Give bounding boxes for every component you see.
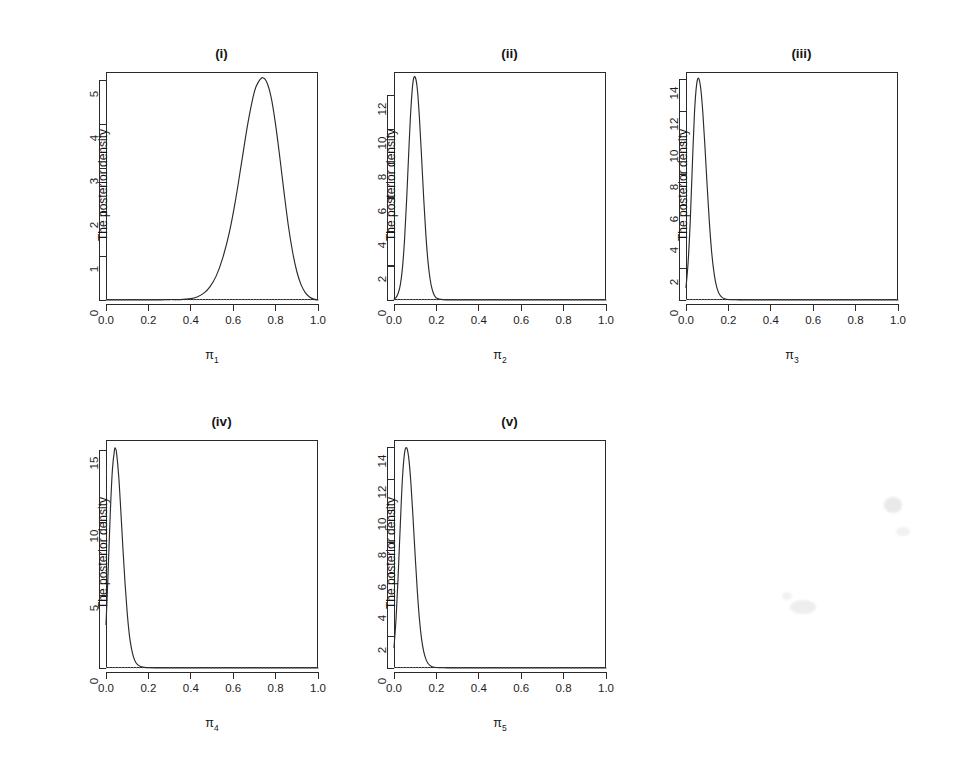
panel-title: (i) bbox=[60, 46, 383, 61]
scan-artifact-smudge bbox=[782, 592, 792, 600]
x-axis-title: π5 bbox=[470, 716, 530, 733]
x-axis-tick-label: 1.0 bbox=[298, 682, 338, 694]
plot-area bbox=[686, 72, 898, 300]
plot-area bbox=[394, 72, 606, 300]
x-axis-title: π4 bbox=[182, 716, 242, 733]
plot-area bbox=[106, 72, 318, 300]
x-axis-tick-label: 0.8 bbox=[256, 682, 296, 694]
x-axis-title: π3 bbox=[762, 348, 822, 365]
plot-area bbox=[394, 440, 606, 668]
panel-title: (v) bbox=[348, 414, 671, 429]
scan-artifact-smudge bbox=[896, 527, 910, 536]
x-axis-tick-label: 0.0 bbox=[374, 682, 414, 694]
plot-panel-2: (ii)0246810120.00.20.40.60.81.0The poste… bbox=[348, 20, 671, 406]
x-axis-tick-label: 1.0 bbox=[298, 314, 338, 326]
density-curve bbox=[106, 448, 318, 668]
x-axis-tick-label: 0.2 bbox=[416, 314, 456, 326]
x-axis-tick-label: 0.0 bbox=[86, 314, 126, 326]
x-axis-tick-label: 0.4 bbox=[459, 314, 499, 326]
y-axis-title: The posterior density bbox=[96, 110, 110, 260]
x-axis-tick-label: 1.0 bbox=[586, 314, 626, 326]
density-curve-svg bbox=[394, 72, 606, 300]
x-axis-tick-label: 0.8 bbox=[836, 314, 876, 326]
x-axis-tick-label: 0.6 bbox=[213, 314, 253, 326]
x-axis-tick-label: 0.6 bbox=[501, 314, 541, 326]
plot-panel-3: (iii)024681012140.00.20.40.60.81.0The po… bbox=[640, 20, 963, 406]
scan-artifact-smudge bbox=[790, 600, 816, 614]
x-axis-line bbox=[106, 304, 318, 305]
panel-title: (ii) bbox=[348, 46, 671, 61]
density-curve-svg bbox=[686, 72, 898, 300]
x-axis-tick-label: 1.0 bbox=[878, 314, 918, 326]
plot-panel-5: (v)024681012140.00.20.40.60.81.0The post… bbox=[348, 388, 671, 772]
x-axis-line bbox=[394, 672, 606, 673]
x-axis-title-subscript: 4 bbox=[214, 723, 219, 733]
x-axis-title-symbol: π bbox=[785, 348, 794, 362]
x-axis-line bbox=[106, 672, 318, 673]
density-curve bbox=[106, 78, 318, 300]
x-axis-title-subscript: 1 bbox=[214, 355, 219, 365]
density-curve bbox=[394, 76, 606, 300]
y-axis-title: The posterior density bbox=[384, 110, 398, 260]
x-axis-tick-label: 0.0 bbox=[666, 314, 706, 326]
x-axis-title: π1 bbox=[182, 348, 242, 365]
x-axis-tick-label: 0.8 bbox=[544, 682, 584, 694]
x-axis-tick-label: 0.4 bbox=[459, 682, 499, 694]
density-curve-svg bbox=[106, 440, 318, 668]
panel-title: (iii) bbox=[640, 46, 963, 61]
x-axis-tick-label: 0.6 bbox=[501, 682, 541, 694]
x-axis-tick-label: 0.6 bbox=[213, 682, 253, 694]
density-curve-svg bbox=[394, 440, 606, 668]
y-axis-title: The posterior density bbox=[96, 478, 110, 628]
x-axis-tick-label: 0.4 bbox=[171, 682, 211, 694]
plot-panel-1: (i)0123450.00.20.40.60.81.0The posterior… bbox=[60, 20, 383, 406]
x-axis-title-symbol: π bbox=[493, 348, 502, 362]
x-axis-tick-label: 1.0 bbox=[586, 682, 626, 694]
x-axis-tick-label: 0.4 bbox=[171, 314, 211, 326]
figure-canvas: (i)0123450.00.20.40.60.81.0The posterior… bbox=[0, 0, 970, 772]
x-axis-tick-label: 0.8 bbox=[256, 314, 296, 326]
panel-title: (iv) bbox=[60, 414, 383, 429]
x-axis-title-subscript: 3 bbox=[794, 355, 799, 365]
x-axis-title-subscript: 5 bbox=[502, 723, 507, 733]
density-curve bbox=[394, 447, 606, 668]
plot-area bbox=[106, 440, 318, 668]
y-axis-title: The posterior density bbox=[676, 110, 690, 260]
x-axis-tick-label: 0.2 bbox=[708, 314, 748, 326]
y-axis-title: The posterior density bbox=[384, 478, 398, 628]
x-axis-line bbox=[394, 304, 606, 305]
x-axis-title-symbol: π bbox=[205, 348, 214, 362]
x-axis-tick-label: 0.8 bbox=[544, 314, 584, 326]
density-curve bbox=[686, 78, 898, 300]
x-axis-title-subscript: 2 bbox=[502, 355, 507, 365]
x-axis-tick-label: 0.6 bbox=[793, 314, 833, 326]
x-axis-tick-label: 0.2 bbox=[128, 682, 168, 694]
x-axis-tick-label: 0.0 bbox=[86, 682, 126, 694]
scan-artifact-smudge bbox=[884, 497, 902, 513]
x-axis-title-symbol: π bbox=[205, 716, 214, 730]
x-axis-title-symbol: π bbox=[493, 716, 502, 730]
x-axis-tick-label: 0.4 bbox=[751, 314, 791, 326]
x-axis-line bbox=[686, 304, 898, 305]
x-axis-title: π2 bbox=[470, 348, 530, 365]
plot-panel-4: (iv)0510150.00.20.40.60.81.0The posterio… bbox=[60, 388, 383, 772]
x-axis-tick-label: 0.2 bbox=[416, 682, 456, 694]
x-axis-tick-label: 0.0 bbox=[374, 314, 414, 326]
density-curve-svg bbox=[106, 72, 318, 300]
x-axis-tick-label: 0.2 bbox=[128, 314, 168, 326]
